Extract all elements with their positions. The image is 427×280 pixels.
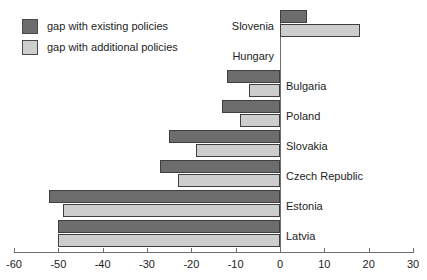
category-label-poland: Poland (286, 110, 320, 123)
bar-slovenia-existing (280, 10, 307, 23)
x-tick-label-5: -10 (216, 258, 256, 271)
bar-latvia-additional (58, 234, 280, 247)
bar-chart: gap with existing policies gap with addi… (0, 0, 427, 280)
x-tick-0 (14, 248, 15, 253)
bar-estonia-additional (63, 204, 280, 217)
x-tick-2 (103, 248, 104, 253)
x-tick-9 (413, 248, 414, 253)
x-tick-label-1: -50 (38, 258, 78, 271)
x-tick-label-9: 30 (393, 258, 427, 271)
bar-czech-republic-additional (178, 174, 280, 187)
category-label-bulgaria: Bulgaria (286, 80, 326, 93)
x-tick-7 (324, 248, 325, 253)
category-label-estonia: Estonia (286, 200, 323, 213)
category-label-slovakia: Slovakia (286, 140, 328, 153)
bar-poland-additional (240, 114, 280, 127)
category-label-latvia: Latvia (286, 230, 315, 243)
category-label-slovenia: Slovenia (232, 20, 274, 33)
bar-latvia-existing (58, 220, 280, 233)
x-tick-label-4: -20 (171, 258, 211, 271)
bar-estonia-existing (49, 190, 280, 203)
x-tick-5 (236, 248, 237, 253)
x-tick-label-7: 10 (304, 258, 344, 271)
x-tick-4 (191, 248, 192, 253)
bar-bulgaria-additional (249, 84, 280, 97)
bar-slovakia-additional (196, 144, 280, 157)
x-tick-label-0: -60 (0, 258, 34, 271)
category-label-hungary: Hungary (232, 50, 274, 63)
x-tick-6 (280, 248, 281, 253)
bar-czech-republic-existing (160, 160, 280, 173)
x-axis-line (14, 252, 413, 253)
bar-bulgaria-existing (227, 70, 280, 83)
x-tick-8 (369, 248, 370, 253)
x-tick-3 (147, 248, 148, 253)
x-tick-label-8: 20 (349, 258, 389, 271)
x-tick-1 (58, 248, 59, 253)
x-tick-label-2: -40 (83, 258, 123, 271)
category-label-czech-republic: Czech Republic (286, 170, 363, 183)
x-tick-label-3: -30 (127, 258, 167, 271)
x-tick-label-6: 0 (260, 258, 300, 271)
bar-poland-existing (222, 100, 280, 113)
bar-slovakia-existing (169, 130, 280, 143)
zero-axis-line (280, 10, 281, 252)
bar-slovenia-additional (280, 24, 360, 37)
plot-area: SloveniaHungaryBulgariaPolandSlovakiaCze… (0, 0, 427, 280)
